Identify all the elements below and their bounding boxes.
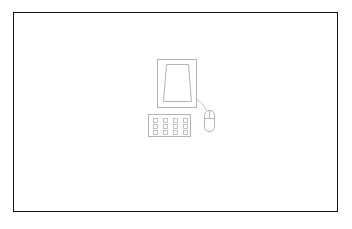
illustration-canvas bbox=[0, 0, 352, 229]
keyboard-region bbox=[147, 113, 192, 138]
cable-region bbox=[195, 97, 209, 112]
mouse-region bbox=[203, 109, 216, 133]
screen-region bbox=[163, 64, 191, 102]
